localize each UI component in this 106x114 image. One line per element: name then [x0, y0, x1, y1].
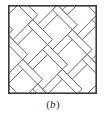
caption-suffix: ): [56, 98, 60, 110]
figure-caption: (b): [0, 97, 106, 111]
figure-panel: (b): [0, 0, 106, 114]
pattern-frame: [8, 5, 97, 94]
herringbone-pattern-svg: [8, 5, 97, 94]
